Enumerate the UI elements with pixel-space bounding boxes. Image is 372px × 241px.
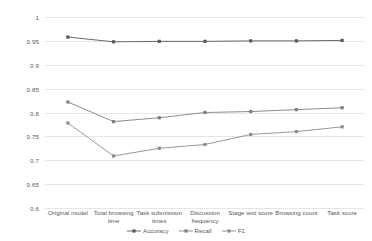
y-axis-tick-label: 1	[35, 14, 39, 21]
chart-legend: AccuracyRecallF1	[0, 227, 372, 234]
legend-label: Accuracy	[143, 227, 168, 234]
y-axis-tick-label: 0.7	[30, 157, 39, 164]
data-point-marker	[341, 39, 344, 42]
legend-label: Recall	[195, 227, 212, 234]
x-axis-tick-label: Discussion frequency	[182, 209, 228, 224]
y-axis-tick-label: 0.95	[27, 37, 39, 44]
data-point-marker	[158, 147, 161, 150]
x-axis-tick-label: Stage test score	[228, 209, 274, 217]
data-point-marker	[249, 133, 252, 136]
x-axis-tick-label: Browsing count	[273, 209, 319, 217]
data-point-marker	[249, 39, 252, 42]
data-point-marker	[295, 108, 298, 111]
y-axis-tick-label: 0.75	[27, 133, 39, 140]
series-lines	[45, 17, 365, 208]
data-point-marker	[66, 121, 69, 124]
line-chart: 10.950.90.850.80.750.70.650.6 Original m…	[0, 0, 372, 241]
data-point-marker	[66, 35, 69, 38]
data-point-marker	[158, 116, 161, 119]
y-axis-tick-label: 0.85	[27, 85, 39, 92]
data-point-marker	[295, 39, 298, 42]
data-point-marker	[203, 143, 206, 146]
legend-marker-icon	[127, 228, 141, 234]
data-point-marker	[203, 111, 206, 114]
data-point-marker	[112, 40, 115, 43]
y-axis-tick-label: 0.8	[30, 109, 39, 116]
x-axis-tick-label: Total browsing time	[91, 209, 137, 224]
data-point-marker	[112, 120, 115, 123]
data-point-marker	[158, 40, 161, 43]
data-point-marker	[295, 130, 298, 133]
x-axis-tick-label: Task submission times	[136, 209, 182, 224]
y-axis-labels: 10.950.90.850.80.750.70.650.6	[0, 17, 43, 208]
legend-item-recall[interactable]: Recall	[179, 227, 212, 234]
y-axis-tick-label: 0.65	[27, 181, 39, 188]
series-line-f1	[68, 123, 342, 156]
legend-item-f1[interactable]: F1	[222, 227, 245, 234]
data-point-marker	[341, 106, 344, 109]
x-axis-tick-label: Task score	[319, 209, 365, 217]
legend-marker-icon	[222, 228, 236, 234]
data-point-marker	[249, 110, 252, 113]
data-point-marker	[112, 154, 115, 157]
legend-label: F1	[238, 227, 245, 234]
data-point-marker	[341, 125, 344, 128]
legend-item-accuracy[interactable]: Accuracy	[127, 227, 168, 234]
y-axis-tick-label: 0.9	[30, 61, 39, 68]
data-point-marker	[66, 100, 69, 103]
data-point-marker	[203, 40, 206, 43]
legend-marker-icon	[179, 228, 193, 234]
x-axis-tick-label: Original model	[45, 209, 91, 217]
y-axis-tick-label: 0.6	[30, 205, 39, 212]
plot-area	[45, 17, 365, 208]
